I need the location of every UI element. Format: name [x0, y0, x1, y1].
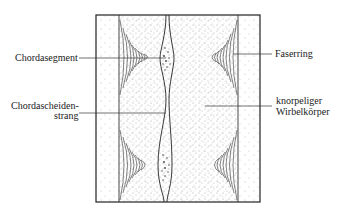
- vertebral-body-region: [119, 15, 238, 202]
- label-chordasegment: Chordasegment: [15, 52, 78, 63]
- label-knorpeliger-line2: Wirbelkörper: [276, 106, 329, 117]
- label-chordascheiden-line2: strang: [54, 110, 78, 121]
- label-faserring: Faserring: [275, 48, 313, 59]
- label-knorpeliger-line1: knorpeliger: [276, 95, 322, 106]
